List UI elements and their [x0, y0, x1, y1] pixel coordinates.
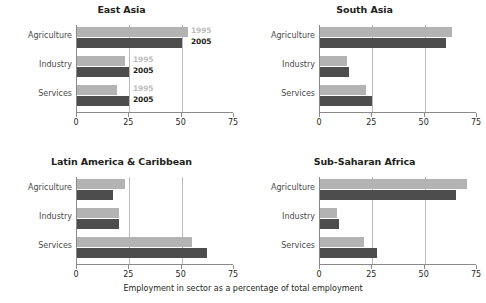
bar-group-services: Services — [320, 236, 476, 264]
bar-1995 — [320, 85, 366, 95]
category-label: Industry — [282, 60, 315, 69]
category-label: Industry — [39, 60, 72, 69]
series-tag-1995: 1995 — [191, 26, 211, 36]
category-label: Industry — [282, 212, 315, 221]
bar-2005 — [77, 190, 113, 200]
axis-tick-label: 0 — [73, 118, 78, 127]
panel-south-asia: South Asia Agriculture Industry Services — [243, 0, 486, 146]
axis-tick-label: 75 — [471, 270, 481, 279]
bar-1995 — [320, 237, 364, 247]
bar-2005 — [320, 248, 377, 258]
bar-2005 — [320, 38, 446, 48]
series-tag-1995: 1995 — [133, 55, 153, 65]
axis-tick — [424, 265, 425, 269]
bar-group-industry: Industry — [77, 207, 233, 235]
bar-1995 — [77, 237, 192, 247]
axis-tick — [128, 113, 129, 117]
bar-group-industry: Industry — [320, 207, 476, 235]
axis-tick — [181, 113, 182, 117]
bar-1995 — [320, 27, 452, 37]
bar-2005 — [320, 67, 349, 77]
category-label: Services — [281, 89, 315, 98]
bar-group-agriculture: Agriculture 1995 2005 — [77, 26, 233, 54]
plot-area: Agriculture Industry Services — [76, 177, 233, 265]
x-axis: 0 25 50 75 — [76, 265, 233, 283]
bar-2005 — [77, 96, 129, 106]
series-tag-2005: 2005 — [133, 95, 153, 105]
panel-title: South Asia — [243, 4, 486, 15]
axis-tick-label: 50 — [419, 118, 429, 127]
axis-tick — [319, 113, 320, 117]
axis-tick-label: 50 — [419, 270, 429, 279]
axis-tick — [233, 113, 234, 117]
category-label: Agriculture — [271, 31, 315, 40]
plot-area: Agriculture Industry Services — [319, 177, 476, 265]
x-axis: 0 25 50 75 — [319, 113, 476, 131]
bar-1995 — [320, 208, 337, 218]
panel-title: Sub-Saharan Africa — [243, 156, 486, 167]
figure-caption: Employment in sector as a percentage of … — [0, 284, 486, 293]
panel-title: Latin America & Caribbean — [0, 156, 243, 167]
plot-area: Agriculture 1995 2005 Industry 1995 2005… — [76, 25, 233, 113]
bar-1995 — [77, 56, 125, 66]
category-label: Agriculture — [28, 31, 72, 40]
category-label: Services — [281, 241, 315, 250]
category-label: Agriculture — [28, 183, 72, 192]
axis-tick-label: 0 — [73, 270, 78, 279]
bar-2005 — [77, 219, 119, 229]
axis-tick-label: 0 — [316, 270, 321, 279]
x-axis: 0 25 50 75 — [319, 265, 476, 283]
axis-tick-label: 75 — [228, 270, 238, 279]
employment-by-sector-figure: East Asia Agriculture 1995 2005 Industry… — [0, 0, 486, 303]
panel-sub-saharan-africa: Sub-Saharan Africa Agriculture Industry … — [243, 152, 486, 298]
axis-tick — [181, 265, 182, 269]
bar-group-industry: Industry — [320, 55, 476, 83]
axis-tick-label: 25 — [366, 270, 376, 279]
panel-title: East Asia — [0, 4, 243, 15]
bar-group-agriculture: Agriculture — [320, 26, 476, 54]
x-axis: 0 25 50 75 — [76, 113, 233, 131]
bar-2005 — [320, 190, 456, 200]
bar-1995 — [77, 27, 188, 37]
bar-1995 — [77, 208, 119, 218]
axis-tick-label: 25 — [366, 118, 376, 127]
axis-tick-label: 50 — [176, 270, 186, 279]
bar-2005 — [77, 67, 129, 77]
axis-tick — [371, 113, 372, 117]
bar-group-services: Services — [77, 236, 233, 264]
series-tag-2005: 2005 — [133, 66, 153, 76]
panel-east-asia: East Asia Agriculture 1995 2005 Industry… — [0, 0, 243, 146]
bar-1995 — [77, 85, 117, 95]
bar-2005 — [320, 219, 339, 229]
axis-tick — [424, 113, 425, 117]
axis-tick — [76, 265, 77, 269]
axis-tick — [233, 265, 234, 269]
category-label: Services — [38, 241, 72, 250]
axis-tick — [128, 265, 129, 269]
bar-1995 — [320, 56, 347, 66]
bar-group-services: Services 1995 2005 — [77, 84, 233, 112]
axis-tick — [476, 113, 477, 117]
bar-group-services: Services — [320, 84, 476, 112]
axis-tick — [371, 265, 372, 269]
axis-tick-label: 75 — [471, 118, 481, 127]
axis-tick — [319, 265, 320, 269]
category-label: Industry — [39, 212, 72, 221]
bar-1995 — [77, 179, 125, 189]
axis-tick-label: 75 — [228, 118, 238, 127]
bar-group-agriculture: Agriculture — [320, 178, 476, 206]
series-tag-2005: 2005 — [191, 37, 211, 47]
bar-group-agriculture: Agriculture — [77, 178, 233, 206]
bar-group-industry: Industry 1995 2005 — [77, 55, 233, 83]
bar-2005 — [77, 38, 182, 48]
axis-tick — [76, 113, 77, 117]
bar-2005 — [77, 248, 207, 258]
axis-tick-label: 25 — [123, 270, 133, 279]
category-label: Services — [38, 89, 72, 98]
bar-1995 — [320, 179, 467, 189]
series-tag-1995: 1995 — [133, 84, 153, 94]
axis-tick-label: 25 — [123, 118, 133, 127]
axis-tick-label: 0 — [316, 118, 321, 127]
plot-area: Agriculture Industry Services — [319, 25, 476, 113]
axis-tick-label: 50 — [176, 118, 186, 127]
